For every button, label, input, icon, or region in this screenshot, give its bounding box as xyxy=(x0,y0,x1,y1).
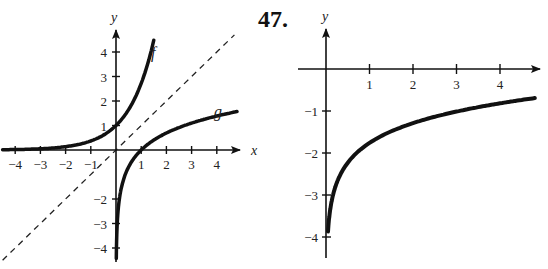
curve-f-label: f xyxy=(151,44,158,62)
figure: −4−3−2−11234−4−3−21234 x y f g 47. 1234−… xyxy=(0,0,548,269)
x-tick-label: 2 xyxy=(163,157,170,172)
chart-left: −4−3−2−11234−4−3−21234 x y f g xyxy=(3,10,258,262)
y-tick-label: −2 xyxy=(93,192,107,207)
curve-g xyxy=(116,112,237,259)
x-axis-label: x xyxy=(250,143,258,158)
curve-g-label: g xyxy=(214,103,222,121)
y-tick-label: −3 xyxy=(93,217,107,232)
y-tick-label: −4 xyxy=(93,241,107,256)
problem-number: 47. xyxy=(258,6,288,32)
y-tick-label: 2 xyxy=(101,94,108,109)
y-tick-label: −1 xyxy=(304,104,318,119)
y-tick-label: −4 xyxy=(304,230,318,245)
x-tick-label: 3 xyxy=(453,77,460,92)
y-tick-label: 4 xyxy=(101,45,108,60)
x-tick-label: −4 xyxy=(8,157,22,172)
x-tick-label: −3 xyxy=(33,157,47,172)
y-tick-label: 3 xyxy=(101,70,108,85)
y-tick-label: −3 xyxy=(304,188,318,203)
chart-right: 47. 1234−1−2−3−4 y xyxy=(258,6,540,258)
x-tick-label: −2 xyxy=(59,157,73,172)
tick-labels: 1234−1−2−3−4 xyxy=(304,77,504,245)
x-tick-label: 3 xyxy=(188,157,195,172)
x-tick-label: 2 xyxy=(410,77,417,92)
x-tick-label: 1 xyxy=(366,77,373,92)
x-tick-label: −1 xyxy=(84,157,98,172)
y-axis-label: y xyxy=(320,9,329,24)
y-tick-label: −2 xyxy=(304,146,318,161)
x-tick-label: 4 xyxy=(497,77,504,92)
curve-log xyxy=(328,98,535,231)
x-tick-label: 4 xyxy=(214,157,221,172)
y-axis-label: y xyxy=(109,10,118,25)
y-tick-label: 1 xyxy=(101,119,108,134)
x-tick-label: 1 xyxy=(138,157,145,172)
curve-f xyxy=(3,40,154,150)
